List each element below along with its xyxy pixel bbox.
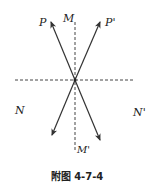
label-P-prime: P'	[105, 17, 115, 28]
label-M: M	[63, 13, 74, 24]
arrow-to-P-prime	[75, 22, 100, 80]
arrow-lower-left	[52, 80, 75, 135]
arrow-lower-right	[75, 80, 100, 140]
diagram-canvas	[0, 0, 154, 190]
arrow-to-P	[51, 22, 75, 80]
label-P: P	[39, 17, 46, 28]
label-N: N	[15, 105, 25, 116]
label-N-prime: N'	[133, 107, 146, 118]
intersection-point	[74, 79, 77, 82]
label-M-prime: M'	[77, 145, 90, 155]
figure-caption: 附图 4-7-4	[0, 168, 154, 183]
